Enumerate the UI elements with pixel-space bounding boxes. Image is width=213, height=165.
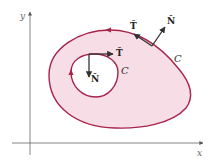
- y-axis-label: y: [19, 11, 26, 21]
- annular-region: [49, 30, 191, 128]
- outer-normal-vector: [152, 27, 165, 46]
- outer-tangent-label: T̂: [130, 20, 137, 31]
- diagram-canvas: y x T̂ N̂ C T̂ N̂ C: [0, 0, 213, 165]
- outer-normal-label: N̂: [167, 15, 175, 26]
- inner-curve-label: C: [121, 65, 129, 76]
- outer-curve-label: C: [174, 53, 182, 64]
- inner-tangent-label: T̂: [116, 47, 123, 58]
- x-axis-label: x: [197, 148, 202, 158]
- inner-normal-label: N̂: [91, 73, 99, 84]
